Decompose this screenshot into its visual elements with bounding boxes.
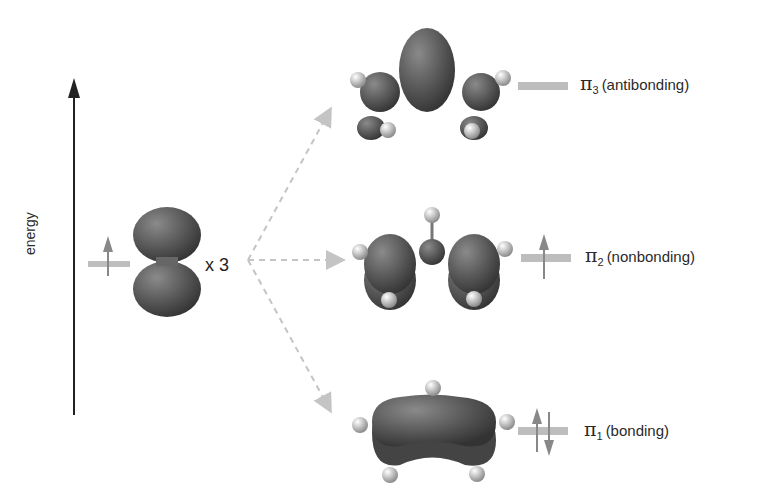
orbital-type: (antibonding) (602, 76, 690, 93)
energy-axis-label: energy (22, 212, 38, 255)
pi2-orbital-model (352, 207, 513, 310)
pi-symbol: π (585, 244, 598, 266)
pi-symbol: π (584, 418, 597, 440)
correlation-arrows (248, 110, 342, 410)
p-orbital (88, 207, 201, 317)
pi1-energy-level (518, 408, 568, 456)
energy-axis (68, 78, 80, 415)
pi-subscript: 2 (598, 256, 604, 268)
pi-subscript: 3 (593, 84, 599, 96)
pi-symbol: π (580, 72, 593, 94)
pi1-orbital-model (352, 380, 515, 483)
pi1-label: π1(bonding) (584, 418, 669, 440)
pi2-energy-level (521, 234, 571, 279)
pi3-energy-level (518, 82, 568, 90)
orbital-multiplier: x 3 (205, 255, 229, 276)
pi2-label: π2(nonbonding) (585, 244, 695, 266)
orbital-type: (nonbonding) (607, 248, 695, 265)
pi-subscript: 1 (597, 430, 603, 442)
orbital-type: (bonding) (606, 422, 669, 439)
pi3-label: π3(antibonding) (580, 72, 689, 94)
pi3-orbital-model (350, 28, 511, 140)
